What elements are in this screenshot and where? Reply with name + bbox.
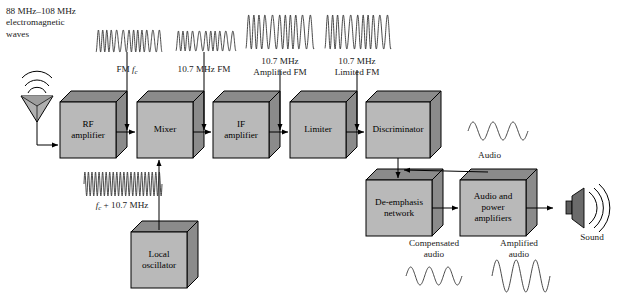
label-audio: Audio — [478, 150, 501, 161]
label-compensated-line2: audio — [409, 249, 459, 260]
antenna-icon — [21, 71, 58, 145]
waveform-fm-fc — [96, 30, 162, 52]
waveform-amplified-audio — [492, 260, 550, 292]
source-label: 88 MHz–108 MHz electromagnetic waves — [6, 6, 76, 40]
waveform-limited-fm — [325, 15, 391, 49]
waveform-local-oscillator — [84, 172, 162, 196]
source-line-1: 88 MHz–108 MHz — [6, 6, 76, 17]
osc-freq-suffix: + 10.7 MHz — [101, 200, 148, 210]
block-discriminator — [366, 91, 441, 158]
label-amplified-fm-line1: 10.7 MHz — [253, 56, 306, 67]
waveform-compensated-audio — [406, 267, 462, 285]
label-amplified-audio-line2: audio — [500, 249, 538, 260]
waveform-107mhz-fm — [176, 31, 236, 51]
label-limited-fm: 10.7 MHz Limited FM — [335, 56, 380, 79]
label-oscillator-frequency: fc + 10.7 MHz — [96, 200, 149, 214]
label-107-fm: 10.7 MHz FM — [178, 64, 231, 75]
block-if-amplifier — [213, 91, 280, 158]
label-amplified-audio-line1: Amplified — [500, 238, 538, 249]
block-rf-amplifier — [60, 91, 127, 158]
block-audio-amplifier — [460, 169, 537, 236]
block-de-emphasis — [366, 169, 443, 236]
source-line-3: waves — [6, 29, 76, 40]
label-amplified-audio: Amplified audio — [500, 238, 538, 261]
block-limiter — [290, 91, 357, 158]
label-fm-fc: FM fc — [116, 64, 137, 78]
waveform-amplified-fm — [246, 15, 314, 49]
fm-receiver-block-diagram: 88 MHz–108 MHz electromagnetic waves FM … — [0, 0, 620, 304]
label-107-fm-line1: 10.7 MHz FM — [178, 64, 231, 75]
label-amplified-fm-line2: Amplified FM — [253, 67, 306, 78]
label-amplified-fm: 10.7 MHz Amplified FM — [253, 56, 306, 79]
label-limited-fm-line2: Limited FM — [335, 67, 380, 78]
block-local-oscillator — [131, 221, 198, 288]
waveform-audio — [468, 122, 528, 140]
label-limited-fm-line1: 10.7 MHz — [335, 56, 380, 67]
label-sound: Sound — [580, 232, 604, 243]
block-group — [60, 91, 537, 288]
source-line-2: electromagnetic — [6, 17, 76, 28]
speaker-icon — [566, 184, 610, 232]
block-mixer — [137, 91, 204, 158]
label-compensated-audio: Compensated audio — [409, 238, 459, 261]
fc-subscript: c — [135, 68, 138, 76]
label-compensated-line1: Compensated — [409, 238, 459, 249]
